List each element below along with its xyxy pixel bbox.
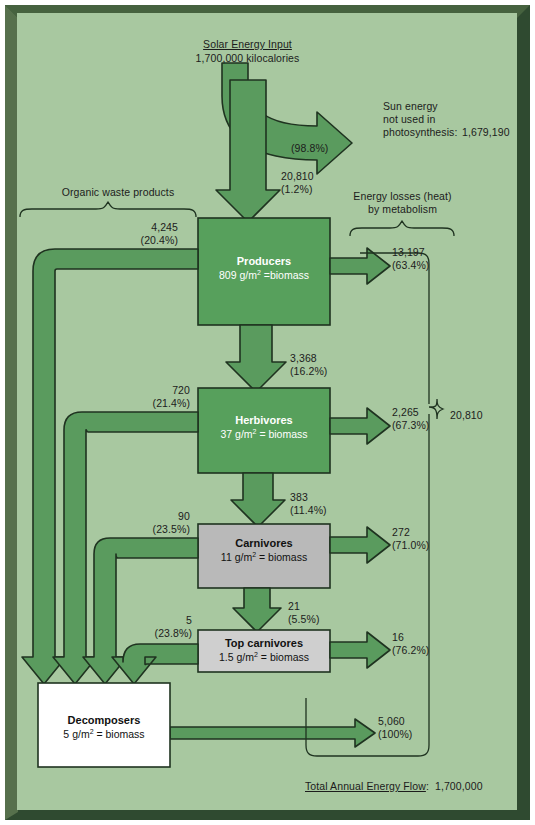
- total-annual-energy-flow: Total Annual Energy Flow: 1,700,000: [305, 780, 483, 793]
- top-carnivores-waste-value: 5: [140, 614, 192, 627]
- sun-loss-pct: (98.8%): [291, 142, 328, 155]
- solar-input-title: Solar Energy Input: [160, 38, 335, 51]
- carnivores-to-top-pct: (5.5%): [288, 613, 320, 626]
- solar-input-subtitle: 1,700,000 kilocalories: [160, 52, 335, 65]
- producers-to-herbivores-value: 3,368: [290, 352, 317, 365]
- producers-biomass: 809 g/m2 =biomass: [198, 269, 330, 283]
- herbivores-waste-value: 720: [140, 384, 190, 397]
- total-annual-energy-flow-colon: :: [426, 780, 435, 792]
- organic-waste-label: Organic waste products: [58, 186, 178, 199]
- decomposers-biomass: 5 g/m2 = biomass: [38, 728, 170, 742]
- solar-to-producers-value: 20,810: [281, 170, 314, 183]
- top-carnivores-name: Top carnivores: [198, 637, 330, 651]
- solar-to-producers-pct: (1.2%): [281, 183, 313, 196]
- top-carnivores-box-label: Top carnivores 1.5 g/m2 = biomass: [198, 637, 330, 664]
- top-carnivores-heat-value: 16: [392, 631, 404, 644]
- metabolism-total: 20,810: [450, 409, 483, 422]
- carnivores-waste-pct: (23.5%): [138, 523, 190, 536]
- solar-input-title-text: Solar Energy Input: [203, 38, 292, 50]
- sun-loss-value: 1,679,190: [462, 126, 510, 139]
- metabolism-label-line1: Energy losses (heat): [350, 190, 455, 203]
- carnivores-name: Carnivores: [198, 537, 330, 551]
- total-annual-energy-flow-value: 1,700,000: [435, 780, 483, 792]
- carnivores-biomass: 11 g/m2 = biomass: [198, 551, 330, 565]
- herbivores-to-carnivores-pct: (11.4%): [290, 504, 327, 517]
- herbivores-name: Herbivores: [198, 414, 330, 428]
- carnivores-heat-pct: (71.0%): [392, 539, 429, 552]
- herbivores-biomass: 37 g/m2 = biomass: [198, 428, 330, 442]
- total-annual-energy-flow-label: Total Annual Energy Flow: [305, 780, 426, 792]
- carnivores-waste-value: 90: [138, 510, 190, 523]
- energy-flow-diagram: .ar{fill:#5a9b5e;stroke:#1f3320;stroke-w…: [0, 0, 535, 825]
- producers-waste-value: 4,245: [123, 221, 178, 234]
- sun-loss-line3: photosynthesis:: [383, 126, 457, 139]
- herbivores-box-label: Herbivores 37 g/m2 = biomass: [198, 414, 330, 441]
- herbivores-to-carnivores-value: 383: [290, 491, 308, 504]
- decomposers-box-label: Decomposers 5 g/m2 = biomass: [38, 714, 170, 741]
- decomposers-name: Decomposers: [38, 714, 170, 728]
- producers-name: Producers: [198, 255, 330, 269]
- top-carnivores-heat-pct: (76.2%): [392, 644, 429, 657]
- sun-loss-line2: not used in: [383, 113, 435, 126]
- producers-waste-pct: (20.4%): [123, 234, 178, 247]
- top-carnivores-biomass: 1.5 g/m2 = biomass: [198, 651, 330, 665]
- producers-heat-pct: (63.4%): [392, 259, 429, 272]
- producers-to-herbivores-pct: (16.2%): [290, 365, 327, 378]
- carnivores-box-label: Carnivores 11 g/m2 = biomass: [198, 537, 330, 564]
- producers-heat-value: 13,197: [392, 246, 425, 259]
- producers-box-label: Producers 809 g/m2 =biomass: [198, 255, 330, 282]
- metabolism-label-line2: by metabolism: [350, 203, 455, 216]
- decomposers-heat-pct: (100%): [378, 728, 412, 741]
- sun-loss-line1: Sun energy: [383, 100, 438, 113]
- decomposers-heat-value: 5,060: [378, 715, 405, 728]
- herbivores-heat-value: 2,265: [392, 406, 419, 419]
- carnivores-to-top-value: 21: [288, 600, 300, 613]
- herbivores-waste-pct: (21.4%): [140, 397, 190, 410]
- herbivores-heat-pct: (67.3%): [392, 419, 429, 432]
- carnivores-heat-value: 272: [392, 526, 410, 539]
- top-carnivores-waste-pct: (23.8%): [140, 627, 192, 640]
